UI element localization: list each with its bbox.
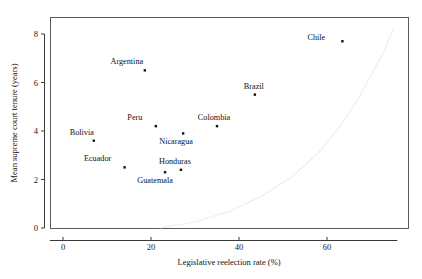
chart-canvas: 02468 0204060 ChileArgentinaBrazilColomb…	[0, 0, 422, 279]
x-axis-tick-label: 60	[323, 242, 332, 252]
plot-frame	[51, 18, 409, 229]
data-point	[216, 125, 218, 127]
x-axis: 0204060	[50, 237, 398, 252]
data-point-label: Peru	[127, 113, 142, 122]
data-point	[341, 40, 343, 42]
y-axis: 02468	[34, 29, 45, 233]
data-point	[180, 169, 182, 171]
data-point-labels-group: ChileArgentinaBrazilColombiaPeruNicaragu…	[70, 33, 326, 185]
x-axis-title: Legislative reelection rate (%)	[177, 257, 280, 267]
data-point	[254, 93, 256, 95]
x-axis-tick-label: 40	[235, 242, 244, 252]
data-point-label: Argentina	[111, 57, 144, 66]
y-axis-title: Mean supreme court tenure (years)	[9, 63, 19, 182]
data-point	[182, 132, 184, 134]
y-axis-tick-label: 0	[34, 223, 38, 233]
y-axis-tick-label: 8	[34, 29, 38, 39]
data-point-label: Bolivia	[70, 128, 94, 137]
data-point-label: Brazil	[244, 82, 265, 91]
data-point	[144, 69, 146, 71]
scatter-chart: 02468 0204060 ChileArgentinaBrazilColomb…	[0, 0, 422, 279]
data-point	[155, 125, 157, 127]
data-point-label: Honduras	[159, 157, 191, 166]
x-axis-tick-label: 20	[147, 242, 156, 252]
data-point	[164, 171, 166, 173]
data-point-label: Guatemala	[137, 176, 173, 185]
data-point-label: Colombia	[198, 113, 231, 122]
fit-curve-group	[160, 29, 393, 228]
y-axis-tick-label: 4	[34, 126, 39, 136]
data-point-label: Nicaragua	[159, 137, 193, 146]
x-axis-tick-label: 0	[61, 242, 65, 252]
data-point-label: Chile	[308, 33, 326, 42]
data-point	[123, 166, 125, 168]
fit-curve	[160, 29, 393, 228]
y-axis-tick-label: 6	[34, 78, 38, 88]
data-point-label: Ecuador	[84, 154, 112, 163]
y-axis-tick-label: 2	[34, 175, 38, 185]
plot-frame-group	[51, 18, 409, 229]
data-point	[93, 140, 95, 142]
